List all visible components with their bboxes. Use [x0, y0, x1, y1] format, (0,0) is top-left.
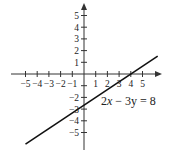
y-tick-label: 4 — [74, 23, 79, 33]
line-graph: −5−4−3−2−112345 12345−2−3−4−5 2x − 3y = … — [0, 0, 169, 152]
x-tick-label: 5 — [140, 79, 145, 89]
x-tick-label: 4 — [128, 79, 133, 89]
x-tick-label: −3 — [44, 79, 54, 89]
x-axis-arrow-icon — [155, 71, 162, 77]
y-tick-label: 5 — [74, 11, 79, 21]
equation-label: 2x − 3y = 8 — [101, 94, 156, 108]
y-axis — [81, 3, 87, 150]
x-tick-label: −1 — [67, 79, 77, 89]
y-tick-label: −2 — [69, 93, 79, 103]
y-tick-label: −4 — [69, 116, 79, 126]
y-axis-arrow-icon — [81, 3, 87, 10]
x-tick-label: −2 — [56, 79, 66, 89]
y-tick-label: 2 — [74, 46, 79, 56]
x-tick-label: −5 — [20, 79, 30, 89]
x-tick-label: 1 — [93, 79, 98, 89]
x-axis — [11, 71, 162, 77]
x-tick-label: −4 — [32, 79, 42, 89]
y-tick-label: 1 — [74, 58, 79, 68]
y-tick-label: −5 — [69, 128, 79, 138]
y-tick-label: 3 — [74, 34, 79, 44]
